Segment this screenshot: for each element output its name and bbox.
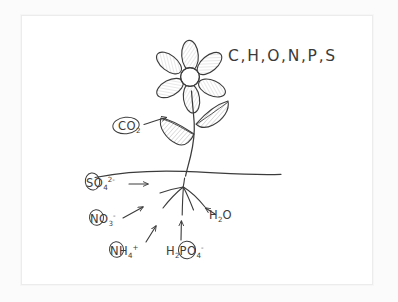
label-ammonium: NH4+ (110, 243, 139, 260)
so4-subscript: 4 (103, 183, 108, 192)
label-carbon-dioxide: CO2 (118, 119, 140, 135)
arrow-ammonium-to-root (146, 226, 156, 242)
root-branch (184, 187, 205, 207)
leaf-right (196, 101, 228, 127)
flower-head (153, 40, 228, 114)
label-nitrate: NO3- (90, 211, 116, 228)
nh4-charge: + (133, 243, 139, 252)
leaf-left (160, 118, 194, 145)
label-phosphate: H2PO4- (166, 243, 204, 260)
h2o-suffix: O (223, 208, 232, 222)
so4-charge: 2- (108, 175, 115, 184)
h2o-prefix: H (209, 208, 218, 222)
sketch-page: C,H,O,N,P,S CO2 SO42- NO3- NH4+ H2PO4- H… (0, 0, 398, 302)
h2po4-core: PO (180, 244, 197, 258)
petal (181, 40, 200, 71)
root-branch (163, 187, 183, 208)
petal (196, 75, 228, 100)
label-water: H2O (209, 208, 232, 224)
co2-subscript: 2 (136, 126, 141, 135)
no3-formula: NO (90, 212, 108, 226)
no3-subscript: 3 (108, 219, 113, 228)
label-atmosphere-elements: C,H,O,N,P,S (228, 47, 337, 65)
co2-formula: CO (118, 119, 136, 133)
soil-surface-line (95, 171, 281, 177)
label-sulfate: SO42- (86, 175, 115, 192)
nh4-subscript: 4 (128, 251, 133, 260)
petal (153, 48, 186, 78)
h2po4-prefix: H (166, 244, 175, 258)
root-branch (182, 188, 183, 216)
arrow-nitrate-to-root (123, 207, 143, 218)
nh4-formula: NH (110, 244, 128, 258)
so4-formula: SO (86, 176, 103, 190)
root-system (160, 178, 205, 215)
h2po4-subscript: 4 (196, 251, 201, 260)
no3-charge: - (113, 211, 116, 220)
h2po4-charge: - (201, 243, 204, 252)
